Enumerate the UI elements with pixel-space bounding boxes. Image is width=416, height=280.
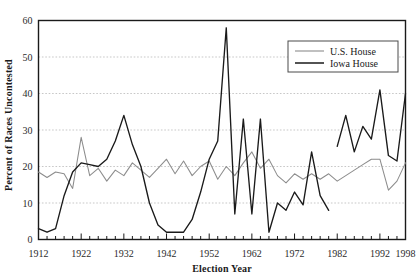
y-tick-label: 10	[23, 198, 33, 209]
y-tick-label: 50	[23, 52, 33, 63]
x-tick-label: 1962	[242, 248, 262, 259]
chart-plot-area: 0102030405060 19121922193219421952196219…	[0, 0, 416, 280]
x-tick-label: 1922	[71, 248, 91, 259]
x-tick-label: 1982	[327, 248, 347, 259]
series-line	[39, 137, 406, 190]
series-line	[39, 28, 329, 232]
legend-entry-label: Iowa House	[330, 58, 379, 69]
y-axis-ticks: 0102030405060	[23, 15, 33, 245]
y-tick-label: 30	[23, 125, 33, 136]
y-tick-label: 40	[23, 88, 33, 99]
y-tick-label: 60	[23, 15, 33, 26]
y-tick-label: 20	[23, 161, 33, 172]
x-tick-label: 1998	[396, 248, 416, 259]
x-tick-label: 1932	[114, 248, 134, 259]
legend-entry-label: U.S. House	[330, 46, 376, 57]
x-tick-label: 1942	[157, 248, 177, 259]
x-axis-ticks: 1912192219321942195219621972198219921998	[29, 234, 416, 259]
series-line-segment2	[337, 90, 405, 161]
y-tick-label: 0	[28, 234, 33, 245]
x-tick-label: 1972	[285, 248, 305, 259]
chart-legend: U.S. HouseIowa House	[288, 41, 398, 72]
x-tick-label: 1952	[199, 248, 219, 259]
x-tick-label: 1992	[370, 248, 390, 259]
x-tick-label: 1912	[29, 248, 49, 259]
chart-figure: Percent of Races Uncontested Election Ye…	[0, 0, 416, 280]
